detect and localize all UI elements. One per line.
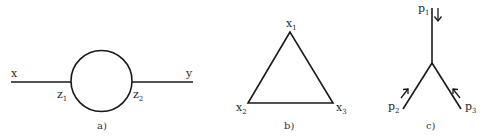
- arrow-down-icon: [435, 8, 442, 21]
- label-z2: z2: [133, 88, 143, 103]
- feynman-diagrams: x y z1 z2 a) x1 x2 x3 b) p1 p2 p3 c: [0, 0, 486, 140]
- label-y: y: [185, 67, 193, 80]
- panel-a: x y z1 z2 a): [11, 51, 193, 132]
- triangle: [248, 32, 333, 103]
- label-z1: z1: [57, 88, 67, 103]
- label-x2: x2: [236, 101, 247, 116]
- right-leg: [432, 63, 461, 109]
- caption-a: a): [97, 120, 107, 131]
- label-x: x: [11, 67, 18, 80]
- label-p3: p3: [465, 100, 477, 115]
- label-x3: x3: [336, 101, 347, 116]
- panel-c: p1 p2 p3 c): [388, 2, 477, 131]
- arrow-up-right-icon: [401, 89, 408, 98]
- panel-b: x1 x2 x3 b): [236, 17, 347, 131]
- label-p2: p2: [388, 100, 400, 115]
- caption-b: b): [284, 120, 294, 131]
- caption-c: c): [426, 120, 436, 131]
- label-p1: p1: [418, 2, 430, 17]
- label-x1: x1: [286, 17, 297, 32]
- left-leg: [403, 63, 432, 109]
- loop-circle: [71, 51, 132, 112]
